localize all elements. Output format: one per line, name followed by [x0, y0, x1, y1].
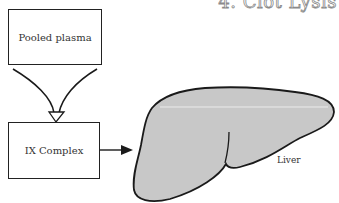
ix-complex-box: IX Complex — [8, 122, 100, 179]
funnel-arrow — [13, 69, 97, 113]
ix-complex-label: IX Complex — [25, 145, 84, 156]
funnel-arrowhead — [49, 112, 64, 122]
arrow-to-liver-head — [121, 145, 133, 155]
pooled-plasma-box: Pooled plasma — [8, 9, 102, 65]
liver-label: Liver — [277, 155, 301, 165]
liver-shape — [134, 87, 334, 201]
pooled-plasma-label: Pooled plasma — [18, 32, 91, 43]
